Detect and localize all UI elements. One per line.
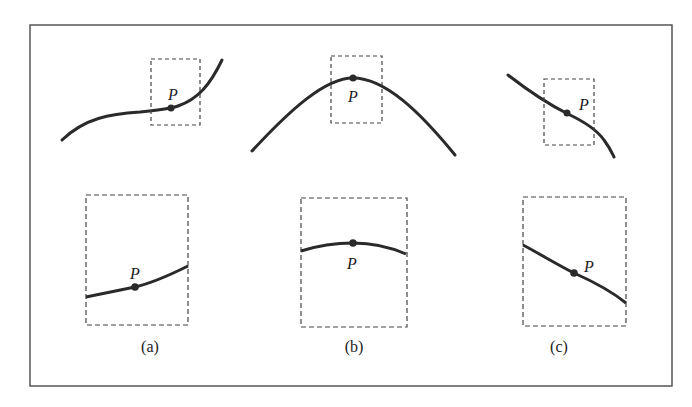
zoomed-box-a (86, 195, 188, 325)
diagram-canvas: P P P P (a) P (b) P (c) (0, 0, 692, 407)
caption-a: (a) (141, 338, 159, 356)
zoomed-box-c (523, 197, 626, 326)
zoomed-point-label-a: P (129, 265, 140, 282)
panel-a-overview: P (62, 59, 222, 140)
curve-a (62, 60, 222, 140)
point-b (350, 75, 357, 82)
point-c (564, 110, 571, 117)
panel-c-overview: P (508, 75, 614, 157)
zoomed-point-label-c: P (583, 258, 594, 275)
point-label-a: P (167, 86, 178, 103)
zoomed-point-a (131, 283, 139, 291)
panel-a-zoomed: P (a) (86, 195, 188, 356)
point-label-b: P (347, 88, 358, 105)
point-label-c: P (578, 96, 589, 113)
panel-b-zoomed: P (b) (301, 198, 407, 356)
panel-b-overview: P (252, 56, 455, 155)
caption-b: (b) (345, 338, 364, 356)
zoomed-point-b (349, 239, 357, 247)
caption-c: (c) (550, 338, 568, 356)
local-linearity-diagram: P P P P (a) P (b) P (c) (0, 0, 692, 407)
zoomed-point-c (570, 269, 578, 277)
zoomed-point-label-b: P (346, 255, 357, 272)
point-a (168, 105, 175, 112)
panel-c-zoomed: P (c) (523, 197, 626, 356)
